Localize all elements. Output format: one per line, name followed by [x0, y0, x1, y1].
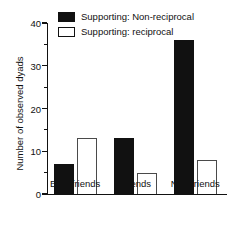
x-tick-label: Best friends [50, 178, 100, 189]
bar-non-reciprocal [174, 40, 194, 194]
x-axis-line [47, 194, 227, 195]
bar-series-group [47, 23, 227, 194]
y-tick-label: 0 [36, 189, 41, 200]
y-tick-label: 10 [30, 146, 41, 157]
y-tick-label: 30 [30, 60, 41, 71]
bar-chart-figure: Supporting: Non-reciprocal Supporting: r… [0, 0, 234, 229]
y-tick-label: 20 [30, 103, 41, 114]
legend-item-non-reciprocal: Supporting: Non-reciprocal [58, 10, 194, 23]
y-axis-label: Number of observed dyads [14, 39, 25, 189]
legend-label-non-reciprocal: Supporting: Non-reciprocal [81, 11, 194, 22]
x-tick-label: Friends [119, 178, 151, 189]
plot-area: 010203040 [47, 23, 227, 194]
y-tick-label: 40 [30, 18, 41, 29]
legend-swatch-filled-icon [58, 12, 75, 22]
x-tick-label: Non-friends [171, 178, 220, 189]
